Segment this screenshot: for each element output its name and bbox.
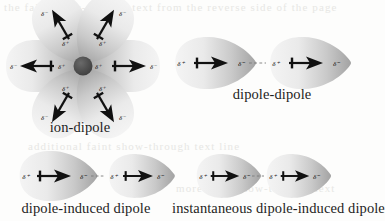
did-left-delta-minus: δ⁻ xyxy=(80,173,88,181)
dd-right-delta-minus: δ⁻ xyxy=(333,60,341,68)
label-delta-minus-right: δ⁻ xyxy=(150,63,157,70)
caption-dipole-induced-dipole: dipole-induced dipole xyxy=(0,200,174,217)
label-delta-plus-bottom-left: δ⁺ xyxy=(62,85,69,92)
dd-left-delta-minus: δ⁻ xyxy=(238,60,246,68)
idid-right-delta-plus: δ⁺ xyxy=(269,173,277,181)
label-delta-minus-top-right: δ⁻ xyxy=(119,10,126,17)
label-delta-plus-top-right: δ⁺ xyxy=(99,40,106,47)
panel-dipole-dipole: δ⁺ δ⁻ δ⁺ δ⁻ xyxy=(175,37,351,89)
did-right-delta-minus: δ⁻ xyxy=(157,173,165,181)
idid-left-delta-plus: δ⁺ xyxy=(199,173,207,181)
label-delta-plus-left: δ⁺ xyxy=(58,63,65,70)
did-left-delta-plus: δ⁺ xyxy=(22,173,30,181)
idid-left-delta-minus: δ⁻ xyxy=(243,173,251,181)
dd-right-delta-plus: δ⁺ xyxy=(272,60,280,68)
caption-instantaneous-dipole-induced-dipole: instantaneous dipole-induced dipole xyxy=(172,200,368,217)
caption-ion-dipole: ion-dipole xyxy=(0,119,160,136)
panel-instantaneous-dipole-induced-dipole: δ⁺ δ⁻ δ⁺ δ⁻ xyxy=(197,154,331,198)
label-delta-plus-top-left: δ⁺ xyxy=(62,40,69,47)
label-delta-minus-top-left: δ⁻ xyxy=(41,10,48,17)
did-right-delta-plus: δ⁺ xyxy=(110,173,118,181)
central-ion xyxy=(74,57,93,76)
label-delta-minus-left: δ⁻ xyxy=(10,63,17,70)
idid-right-delta-minus: δ⁻ xyxy=(313,173,321,181)
caption-dipole-dipole: dipole-dipole xyxy=(186,86,358,103)
panel-dipole-induced-dipole: δ⁺ δ⁻ δ⁺ δ⁻ xyxy=(20,151,175,201)
label-delta-plus-right: δ⁺ xyxy=(95,63,102,70)
label-delta-plus-bottom-right: δ⁺ xyxy=(99,85,106,92)
dd-left-delta-plus: δ⁺ xyxy=(177,60,185,68)
